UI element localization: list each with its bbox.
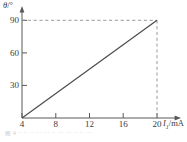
data-series-line bbox=[22, 20, 157, 118]
y-axis-arrow-icon bbox=[20, 6, 25, 12]
x-tick-label-12: 12 bbox=[85, 120, 94, 129]
figure-container: 90 60 30 4 8 12 16 20 θ/° I1/mA 图 4 ·· ·… bbox=[0, 0, 187, 142]
y-tick-label-60: 60 bbox=[0, 48, 19, 57]
y-axis-unit: /° bbox=[7, 0, 13, 10]
y-axis-title: θ/° bbox=[3, 1, 13, 10]
x-axis-title: I1/mA bbox=[163, 119, 184, 130]
x-tick-label-20: 20 bbox=[153, 120, 162, 129]
x-tick-label-8: 8 bbox=[54, 120, 59, 129]
y-tick-label-90: 90 bbox=[0, 16, 19, 25]
figure-caption: 图 4 ·· ·· ·· ··· ··· ·· ··· ··· ·· ·· ··… bbox=[5, 131, 183, 137]
x-axis-unit: /mA bbox=[169, 118, 184, 128]
x-tick-label-16: 16 bbox=[119, 120, 128, 129]
x-tick-label-4: 4 bbox=[20, 120, 25, 129]
y-tick-label-30: 30 bbox=[0, 81, 19, 90]
